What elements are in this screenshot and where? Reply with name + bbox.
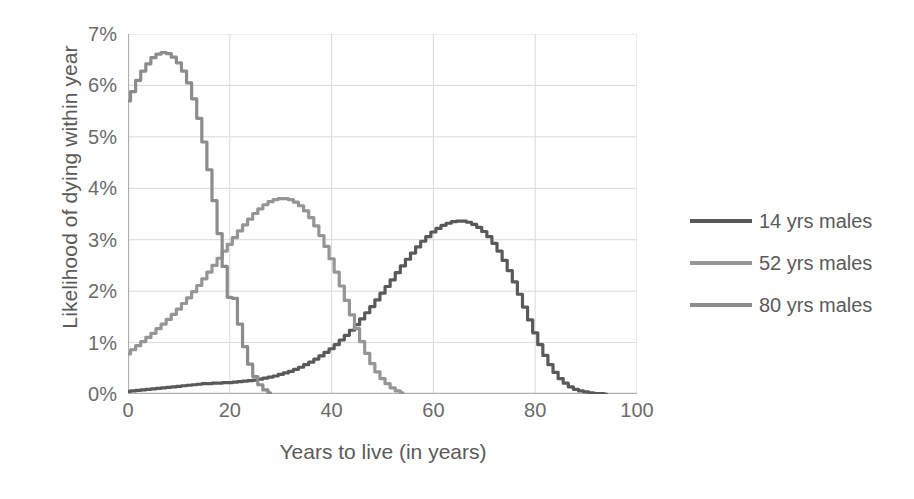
legend-item[interactable]: 14 yrs males bbox=[690, 200, 905, 242]
y-axis-tick-label: 3% bbox=[57, 230, 117, 250]
y-axis-tick-label: 6% bbox=[57, 75, 117, 95]
chart-legend: 14 yrs males52 yrs males80 yrs males bbox=[690, 200, 905, 326]
legend-line-swatch bbox=[690, 261, 752, 265]
x-axis-tick-label: 60 bbox=[422, 400, 444, 420]
y-axis-tick-label: 7% bbox=[57, 24, 117, 44]
x-axis-tick-label: 80 bbox=[524, 400, 546, 420]
y-axis-tick-label: 5% bbox=[57, 127, 117, 147]
plot-svg bbox=[128, 34, 637, 394]
x-axis-tick-label: 0 bbox=[122, 400, 133, 420]
legend-item[interactable]: 52 yrs males bbox=[690, 242, 905, 284]
series-line-1 bbox=[128, 221, 606, 394]
plot-area bbox=[128, 34, 637, 394]
legend-line-swatch bbox=[690, 303, 752, 307]
y-axis-tick-label: 4% bbox=[57, 178, 117, 198]
series-line-2 bbox=[128, 199, 403, 393]
legend-item-label: 80 yrs males bbox=[759, 294, 872, 317]
x-axis-tick-label: 20 bbox=[219, 400, 241, 420]
x-axis-tick-label: 40 bbox=[320, 400, 342, 420]
x-axis-title: Years to live (in years) bbox=[128, 440, 638, 464]
legend-item[interactable]: 80 yrs males bbox=[690, 284, 905, 326]
legend-line-swatch bbox=[690, 219, 752, 223]
legend-item-label: 52 yrs males bbox=[759, 252, 872, 275]
legend-item-label: 14 yrs males bbox=[759, 210, 872, 233]
y-axis-tick-label: 2% bbox=[57, 281, 117, 301]
y-axis-tick-label: 0% bbox=[57, 384, 117, 404]
x-axis-tick-label: 100 bbox=[620, 400, 653, 420]
chart-figure: Likelihood of dying within year 0%1%2%3%… bbox=[0, 0, 914, 499]
y-axis-tick-label: 1% bbox=[57, 333, 117, 353]
y-axis-tick-labels: 0%1%2%3%4%5%6%7% bbox=[55, 0, 117, 499]
